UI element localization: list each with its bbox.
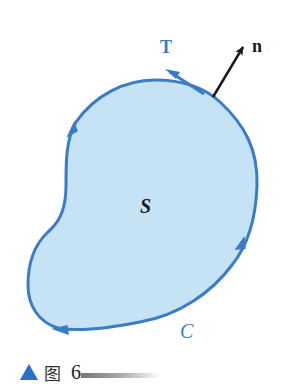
surface-label: S [140, 196, 151, 216]
surface-boundary-diagram [0, 0, 282, 384]
caption-underline-bar [81, 373, 161, 378]
curve-label: C [180, 321, 193, 341]
figure-caption: 图 6 [20, 362, 161, 382]
caption-number: 6 [71, 361, 81, 384]
caption-word: 图 [44, 360, 61, 384]
tangent-label: T [160, 38, 172, 56]
normal-arrow-icon [213, 47, 243, 97]
normal-label: n [252, 37, 262, 55]
triangle-marker-icon [20, 364, 38, 380]
